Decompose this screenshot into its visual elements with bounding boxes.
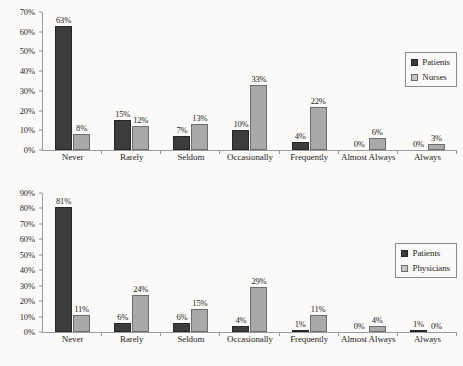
bar <box>191 309 208 332</box>
x-axis-category-label: Occasionally <box>220 152 279 162</box>
legend-swatch-icon <box>411 59 418 66</box>
y-axis-tick-label: 60% <box>20 234 35 244</box>
chart-patients-vs-physicians: 0%10%20%30%40%50%60%70%80%90%81%11%6%24%… <box>0 183 463 366</box>
bar-value-label: 4% <box>295 132 306 141</box>
bar <box>369 326 386 332</box>
bar-slot: 8% <box>73 12 90 150</box>
chart-patients-vs-nurses: 0%10%20%30%40%50%60%70%63%8%15%12%7%13%1… <box>0 0 463 183</box>
x-axis-line <box>42 150 457 151</box>
bar-slot: 81% <box>55 193 72 332</box>
x-axis-category-label: Almost Always <box>339 152 398 162</box>
plot-area: 63%8%15%12%7%13%10%33%4%22%0%6%0%3% <box>42 12 457 150</box>
y-axis: 0%10%20%30%40%50%60%70%80%90% <box>0 183 42 366</box>
legend-item[interactable]: Physicians <box>401 263 450 273</box>
legend-label: Nurses <box>422 72 446 82</box>
x-axis-category-labels: NeverRarelySeldomOccasionallyFrequentlyA… <box>43 152 457 162</box>
bar <box>114 120 131 150</box>
bar-value-label: 11% <box>74 305 89 314</box>
y-axis-tick-label: 0% <box>24 145 35 155</box>
bar-slot: 11% <box>310 193 327 332</box>
bar <box>232 326 249 332</box>
bar-slot: 4% <box>369 193 386 332</box>
bar <box>292 330 309 332</box>
legend-swatch-icon <box>411 74 418 81</box>
bar-slot: 1% <box>292 193 309 332</box>
bar-value-label: 22% <box>311 97 326 106</box>
y-axis-tick-label: 60% <box>20 27 35 37</box>
y-axis-tick-label: 0% <box>24 327 35 337</box>
bar-slot: 0% <box>351 193 368 332</box>
bar-value-label: 1% <box>295 320 306 329</box>
bar-value-label: 11% <box>311 305 326 314</box>
bar-slot: 7% <box>173 12 190 150</box>
bar-value-label: 0% <box>431 322 442 331</box>
bar-slot: 0% <box>351 12 368 150</box>
y-axis-tick-label: 90% <box>20 188 35 198</box>
bar-slot: 4% <box>232 193 249 332</box>
y-axis-tick-label: 20% <box>20 106 35 116</box>
y-axis-tick-label: 30% <box>20 281 35 291</box>
bar <box>369 138 386 150</box>
legend-item[interactable]: Nurses <box>411 72 450 82</box>
legend-label: Patients <box>422 57 450 67</box>
bar-group: 63%8% <box>43 12 102 150</box>
bar-group: 81%11% <box>43 193 102 332</box>
bar <box>55 207 72 332</box>
bar-value-label: 13% <box>192 114 207 123</box>
legend-item[interactable]: Patients <box>401 248 450 258</box>
x-axis-category-label: Frequently <box>280 334 339 344</box>
x-axis-category-label: Always <box>398 334 457 344</box>
bar-value-label: 1% <box>413 320 424 329</box>
x-axis-category-label: Seldom <box>161 334 220 344</box>
x-axis-category-label: Rarely <box>102 152 161 162</box>
legend-label: Physicians <box>412 263 450 273</box>
legend: PatientsPhysicians <box>395 243 457 278</box>
bar-group: 4%22% <box>280 12 339 150</box>
legend-swatch-icon <box>401 265 408 272</box>
bar-group: 10%33% <box>220 12 279 150</box>
bar-slot: 63% <box>55 12 72 150</box>
bar-group: 1%11% <box>280 193 339 332</box>
bar-value-label: 0% <box>354 140 365 149</box>
x-axis-category-label: Rarely <box>102 334 161 344</box>
y-axis-tick-label: 20% <box>20 296 35 306</box>
bar-value-label: 6% <box>117 313 128 322</box>
bar-slot: 29% <box>250 193 267 332</box>
y-axis-tick-label: 70% <box>20 219 35 229</box>
bar-group: 6%24% <box>102 193 161 332</box>
x-axis-category-labels: NeverRarelySeldomOccasionallyFrequentlyA… <box>43 334 457 344</box>
bar-slot: 6% <box>369 12 386 150</box>
bar-group: 7%13% <box>161 12 220 150</box>
bar-value-label: 8% <box>76 124 87 133</box>
bar-value-label: 12% <box>133 116 148 125</box>
legend-label: Patients <box>412 248 440 258</box>
bar-value-label: 6% <box>372 128 383 137</box>
bar-slot: 11% <box>73 193 90 332</box>
bar-slot: 6% <box>114 193 131 332</box>
bar <box>250 287 267 332</box>
x-axis-line <box>42 332 457 333</box>
bar-value-label: 7% <box>176 126 187 135</box>
bar-value-label: 29% <box>251 277 266 286</box>
y-axis-tick-label: 50% <box>20 46 35 56</box>
y-axis: 0%10%20%30%40%50%60%70% <box>0 0 42 183</box>
bar-slot: 33% <box>250 12 267 150</box>
y-axis-tick-label: 10% <box>20 312 35 322</box>
x-axis-category-label: Never <box>43 152 102 162</box>
bar <box>173 323 190 332</box>
y-axis-tick-label: 80% <box>20 203 35 213</box>
x-axis-category-label: Frequently <box>280 152 339 162</box>
legend-item[interactable]: Patients <box>411 57 450 67</box>
x-axis-category-label: Almost Always <box>339 334 398 344</box>
bar-groups: 63%8%15%12%7%13%10%33%4%22%0%6%0%3% <box>43 12 457 150</box>
bar <box>73 134 90 150</box>
x-axis-category-label: Never <box>43 334 102 344</box>
bar-slot: 15% <box>191 193 208 332</box>
bar-group: 6%15% <box>161 193 220 332</box>
bar <box>132 126 149 150</box>
bar-slot: 4% <box>292 12 309 150</box>
bar-group: 0%6% <box>339 12 398 150</box>
bar-value-label: 33% <box>251 75 266 84</box>
bar-slot: 6% <box>173 193 190 332</box>
bar <box>191 124 208 150</box>
